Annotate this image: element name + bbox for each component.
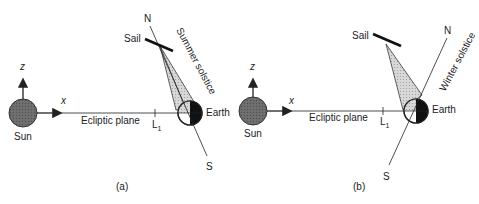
ecliptic-plane-label: Ecliptic plane — [309, 112, 368, 123]
earth-axis-line — [389, 38, 447, 165]
x-axis-label: x — [60, 95, 67, 106]
caption-b: (b) — [353, 181, 365, 192]
panel-a: z Sun x Ecliptic plane L1 Earth N S Sail — [9, 13, 230, 192]
z-axis-label: z — [249, 61, 255, 72]
south-label: S — [383, 171, 390, 182]
ecliptic-plane-label: Ecliptic plane — [81, 115, 140, 126]
panel-b: z Sun x Ecliptic plane L1 Earth N S Sail — [239, 25, 477, 192]
earth-icon — [404, 99, 428, 123]
earth-label: Earth — [206, 107, 230, 118]
north-label: N — [444, 25, 451, 36]
season-label: Winter solstice — [437, 30, 477, 93]
l1-label: L1 — [152, 119, 162, 132]
l1-label: L1 — [380, 116, 390, 129]
sail-label: Sail — [352, 30, 369, 41]
earth-icon — [178, 101, 202, 125]
x-axis-label: x — [288, 95, 295, 106]
sail-label: Sail — [124, 33, 141, 44]
sun-icon — [9, 99, 37, 127]
sun-label: Sun — [14, 131, 32, 142]
solar-sail-diagram: z Sun x Ecliptic plane L1 Earth N S Sail — [0, 0, 479, 204]
sail-icon — [373, 34, 401, 46]
caption-a: (a) — [116, 181, 128, 192]
south-label: S — [206, 161, 213, 172]
sun-icon — [239, 97, 267, 125]
north-label: N — [144, 13, 151, 24]
earth-label: Earth — [432, 104, 456, 115]
sun-label: Sun — [244, 128, 262, 139]
z-axis-label: z — [19, 61, 25, 72]
sail-icon — [145, 39, 173, 51]
